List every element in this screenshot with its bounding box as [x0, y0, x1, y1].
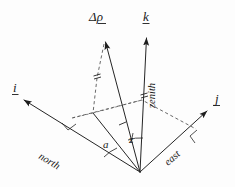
label-i-group: i: [12, 80, 19, 95]
label-zenith-angle: z: [128, 133, 134, 145]
tick-mark-delta-rho: [119, 122, 126, 125]
tick-mark-projection: [94, 74, 101, 76]
label-j-group: j: [213, 91, 220, 106]
vector-delta-rho: [106, 42, 141, 172]
right-angle-mark-east: [190, 130, 197, 143]
delta-rho-line: [106, 42, 141, 172]
figure-canvas: Δρ k i j north east zenith a z: [0, 0, 235, 187]
ground-plane-far-edges: [72, 100, 196, 129]
label-east: east: [162, 147, 183, 167]
label-i: i: [13, 80, 17, 95]
label-k: k: [143, 9, 149, 24]
right-angle-mark-north: [62, 123, 76, 130]
label-zenith: zenith: [146, 83, 157, 109]
label-north: north: [37, 150, 62, 171]
label-delta-rho: Δρ: [88, 9, 103, 24]
label-azimuth-angle: a: [103, 138, 109, 150]
label-k-group: k: [143, 9, 150, 24]
tick-mark-projection-2: [94, 77, 101, 79]
label-delta-rho-group: Δρ: [88, 9, 106, 24]
label-j: j: [213, 91, 219, 106]
projection-dashed-lines: [72, 44, 142, 172]
coordinate-system-diagram: Δρ k i j north east zenith a z: [0, 0, 235, 187]
